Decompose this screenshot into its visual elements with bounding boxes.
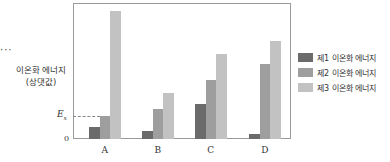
legend-swatch-second (298, 68, 313, 77)
bar-C-series3 (216, 54, 227, 139)
y-axis-label-line2: (상댓값) (12, 76, 70, 88)
bar-A-series2 (100, 116, 111, 139)
legend-item-second: 제2 이온화 에너지 (298, 65, 376, 80)
x-tick-D: D (255, 145, 275, 155)
y-axis-label: 이온화 에너지 (상댓값) (12, 64, 70, 88)
legend-label-third: 제3 이온화 에너지 (317, 82, 376, 93)
bar-B-series1 (142, 131, 153, 139)
legend-item-first: 제1 이온화 에너지 (298, 50, 376, 65)
bar-C-series2 (206, 80, 217, 139)
legend-label-first: 제1 이온화 에너지 (317, 52, 376, 63)
ex-tick-label: Ex (57, 109, 67, 121)
ex-tick-sub: x (64, 114, 67, 121)
y-axis-label-line1: 이온화 에너지 (12, 64, 70, 76)
bar-B-series2 (153, 109, 164, 139)
x-tick-C: C (201, 145, 221, 155)
x-tick-B: B (148, 145, 168, 155)
bar-B-series3 (163, 93, 174, 139)
legend-label-second: 제2 이온화 에너지 (317, 67, 376, 78)
legend: 제1 이온화 에너지 제2 이온화 에너지 제3 이온화 에너지 (298, 50, 376, 95)
x-tick-A: A (95, 145, 115, 155)
legend-swatch-first (298, 53, 313, 62)
zero-tick-label: 0 (64, 134, 69, 143)
bar-A-series3 (110, 11, 121, 139)
bar-A-series1 (89, 127, 100, 139)
ellipsis-mark: ··· (0, 44, 13, 55)
legend-item-third: 제3 이온화 에너지 (298, 80, 376, 95)
ex-tick-main: E (57, 109, 64, 119)
bar-D-series3 (270, 41, 281, 139)
bar-C-series1 (195, 104, 206, 139)
bar-D-series1 (249, 134, 260, 139)
legend-swatch-third (298, 83, 313, 92)
ex-reference-line (73, 116, 100, 117)
bar-D-series2 (260, 64, 271, 139)
